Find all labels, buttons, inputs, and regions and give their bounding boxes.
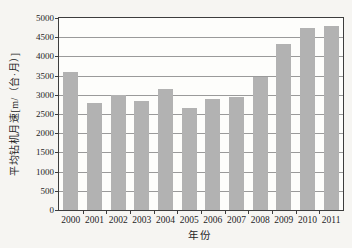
x-tick-label-2000: 2000	[59, 214, 83, 226]
y-tick-label-1500: 1500	[0, 147, 54, 157]
x-tick-label-2007: 2007	[225, 214, 249, 226]
y-tick-label-1000: 1000	[0, 167, 54, 177]
bar-2000	[63, 72, 78, 210]
bar-2008	[253, 77, 268, 210]
y-tick-label-500: 500	[0, 186, 54, 196]
x-tick-label-2010: 2010	[296, 214, 320, 226]
bar-2004	[158, 89, 173, 210]
bar-chart-figure: 平均钻机月速[m/（台·月）] 050010001500200025003000…	[0, 0, 352, 248]
bar-2001	[87, 103, 102, 210]
y-tick-label-3000: 3000	[0, 90, 54, 100]
bar-2010	[300, 28, 315, 210]
bar-2007	[229, 97, 244, 210]
y-tick-label-4000: 4000	[0, 51, 54, 61]
bar-2002	[111, 95, 126, 210]
x-axis-title: 年份	[58, 227, 342, 242]
bar-2009	[276, 44, 291, 210]
x-tick-label-2005: 2005	[177, 214, 201, 226]
y-tick-label-3500: 3500	[0, 71, 54, 81]
bar-2005	[182, 108, 197, 210]
x-tick-label-2008: 2008	[248, 214, 272, 226]
x-tick-label-2002: 2002	[106, 214, 130, 226]
x-tick-label-2006: 2006	[201, 214, 225, 226]
y-tick-label-5000: 5000	[0, 13, 54, 23]
x-tick-label-2009: 2009	[272, 214, 296, 226]
x-tick-label-2003: 2003	[130, 214, 154, 226]
plot-area	[58, 17, 344, 211]
y-tick-label-2500: 2500	[0, 109, 54, 119]
y-tick-label-4500: 4500	[0, 32, 54, 42]
bar-2006	[205, 99, 220, 210]
y-tick-label-0: 0	[0, 205, 54, 215]
x-tick-label-2004: 2004	[154, 214, 178, 226]
x-tick-label-2001: 2001	[83, 214, 107, 226]
bar-2011	[324, 26, 339, 210]
bar-2003	[134, 101, 149, 210]
y-tick-label-2000: 2000	[0, 128, 54, 138]
x-tick-label-2011: 2011	[319, 214, 343, 226]
